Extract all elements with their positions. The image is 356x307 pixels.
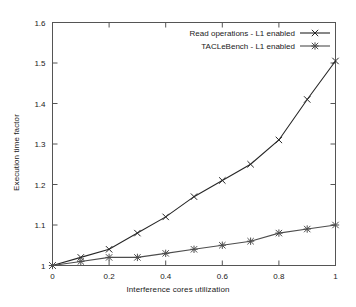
y-tick-label: 1.3 xyxy=(34,140,46,149)
y-tick-label: 1.6 xyxy=(34,19,46,28)
data-point-marker xyxy=(105,254,112,261)
data-point-marker xyxy=(106,246,112,252)
data-point-marker xyxy=(162,250,169,257)
x-tick-label: 0 xyxy=(50,272,55,281)
plot-frame xyxy=(53,23,336,266)
series-line xyxy=(53,225,336,266)
y-tick-label: 1.4 xyxy=(34,100,46,109)
legend-label-2: TACLeBench - L1 enabled xyxy=(201,42,295,51)
data-point-marker xyxy=(247,238,254,245)
y-tick-label: 1.1 xyxy=(34,221,46,230)
x-tick-label: 0.6 xyxy=(217,272,229,281)
data-point-marker xyxy=(49,262,56,269)
data-point-marker xyxy=(332,221,339,228)
legend-label-1: Read operations - L1 enabled xyxy=(190,29,295,38)
data-point-marker xyxy=(276,137,282,143)
data-point-marker xyxy=(247,161,253,167)
data-point-marker xyxy=(163,214,169,220)
y-tick-label: 1.2 xyxy=(34,181,46,190)
data-point-marker xyxy=(134,254,141,261)
data-point-marker xyxy=(134,230,140,236)
chart-container: 11.11.21.31.41.51.6 00.20.40.60.81 Read … xyxy=(0,0,356,307)
data-point-marker xyxy=(191,193,197,199)
y-tick-label: 1.5 xyxy=(34,59,46,68)
x-tick-label: 1 xyxy=(333,272,338,281)
data-point-marker xyxy=(219,177,225,183)
data-point-marker xyxy=(304,225,311,232)
data-point-marker xyxy=(304,96,310,102)
y-tick-label: 1 xyxy=(41,262,46,271)
chart-legend: Read operations - L1 enabledTACLeBench -… xyxy=(190,29,330,51)
data-point-marker xyxy=(190,246,197,253)
data-point-marker xyxy=(77,258,84,265)
data-point-marker xyxy=(219,242,226,249)
series-line xyxy=(53,61,336,266)
x-tick-label: 0.8 xyxy=(273,272,285,281)
data-point-marker xyxy=(275,229,282,236)
series-2 xyxy=(49,221,339,269)
series-1 xyxy=(49,58,338,269)
x-axis-title: Interference cores utilization xyxy=(0,285,356,294)
data-point-marker xyxy=(311,42,318,49)
y-axis-title: Execution time factor xyxy=(12,63,21,243)
y-axis-ticks: 11.11.21.31.41.51.6 xyxy=(34,19,335,271)
x-tick-label: 0.4 xyxy=(160,272,172,281)
data-series-layer xyxy=(49,58,339,269)
x-axis-ticks: 00.20.40.60.81 xyxy=(50,23,338,281)
line-chart-plot: 11.11.21.31.41.51.6 00.20.40.60.81 Read … xyxy=(0,0,356,307)
x-tick-label: 0.2 xyxy=(104,272,116,281)
